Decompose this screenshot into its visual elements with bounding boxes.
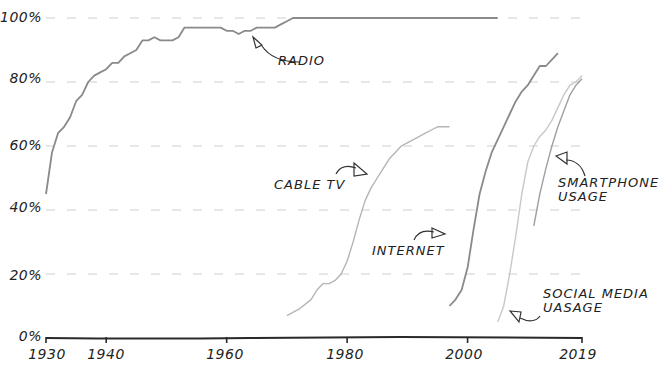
annotation-smartphone-line1: SMARTPHONE (558, 175, 659, 190)
x-axis (46, 337, 582, 343)
annotation-social-line1: SOCIAL MEDIA (543, 286, 649, 301)
series-cable-tv (287, 127, 450, 316)
x-tick-1930: 1930 (22, 346, 72, 362)
social-arrow-icon (520, 316, 540, 321)
social-arrowhead-icon (510, 311, 521, 322)
cable-arrow-icon (336, 166, 356, 174)
smartphone-arrowhead-icon (556, 152, 567, 164)
annotation-smartphone-line2: USAGE (558, 189, 608, 204)
annotation-radio: RADIO (278, 53, 325, 68)
radio-arrowhead-icon (253, 37, 262, 48)
annotation-cable-tv: CABLE TV (274, 177, 345, 192)
annotation-internet: INTERNET (372, 243, 445, 258)
x-tick-2019: 2019 (553, 346, 603, 362)
series-internet (450, 53, 558, 306)
x-tick-1980: 1980 (320, 346, 370, 362)
cable-arrowhead-icon (354, 163, 367, 176)
series-radio (46, 18, 498, 194)
x-tick-2000: 2000 (439, 346, 489, 362)
y-tick-20: 20% (0, 267, 42, 283)
internet-arrowhead-icon (432, 228, 445, 238)
y-tick-0: 0% (0, 328, 42, 344)
y-tick-100: 100% (0, 9, 42, 25)
internet-arrow-icon (414, 231, 434, 240)
x-tick-1960: 1960 (200, 346, 250, 362)
y-tick-40: 40% (0, 199, 42, 215)
smartphone-arrow-icon (566, 160, 585, 176)
y-tick-80: 80% (0, 70, 42, 86)
y-tick-60: 60% (0, 137, 42, 153)
x-tick-1940: 1940 (81, 346, 131, 362)
annotation-social-line2: UASAGE (543, 300, 603, 315)
